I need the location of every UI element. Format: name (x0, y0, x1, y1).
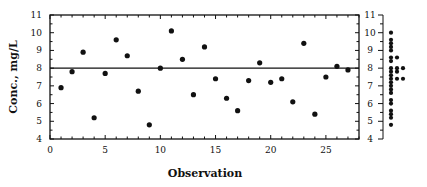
data-point (213, 76, 218, 81)
dot-plot-point (389, 31, 393, 35)
dot-plot-point (389, 91, 393, 95)
y-tick-label: 4 (36, 134, 42, 144)
y-tick-label: 7 (36, 81, 42, 91)
dot-plot-point (389, 123, 393, 127)
y-axis-title: Conc., mg/L (7, 40, 20, 114)
y-tick-label: 5 (36, 116, 42, 126)
x-tick-label: 10 (155, 145, 167, 155)
y-tick-label: 11 (31, 10, 42, 20)
data-point (136, 89, 141, 94)
dot-plot-point (389, 112, 393, 116)
x-tick-label: 15 (210, 145, 222, 155)
data-point (147, 122, 152, 127)
data-point (114, 37, 119, 42)
scatter-chart: 45678910110510152025 4567891011 Observat… (0, 0, 427, 187)
data-point (169, 28, 174, 33)
data-point (125, 53, 130, 58)
side-dot-plot: 4567891011 (364, 10, 405, 144)
data-point (279, 76, 284, 81)
data-point (312, 112, 317, 117)
data-point (180, 57, 185, 62)
data-point (92, 115, 97, 120)
side-y-tick-label: 10 (364, 28, 376, 38)
y-tick-label: 9 (36, 45, 42, 55)
dot-plot-point (389, 101, 393, 105)
data-point (202, 44, 207, 49)
data-point (69, 69, 74, 74)
side-y-tick-label: 5 (367, 116, 373, 126)
x-tick-label: 5 (102, 145, 108, 155)
side-y-tick-label: 11 (364, 10, 375, 20)
data-point (191, 92, 196, 97)
data-point (290, 99, 295, 104)
side-y-tick-label: 4 (367, 134, 373, 144)
dot-plot-point (389, 80, 393, 84)
dot-plot-point (395, 55, 399, 59)
data-point (235, 108, 240, 113)
dot-plot-point (395, 77, 399, 81)
dot-plot-point (389, 73, 393, 77)
x-axis-title: Observation (168, 167, 242, 180)
side-y-tick-label: 7 (367, 81, 373, 91)
x-tick-label: 25 (320, 145, 332, 155)
data-point (103, 71, 108, 76)
data-point (158, 66, 163, 71)
dot-plot-point (389, 41, 393, 45)
data-point (323, 74, 328, 79)
x-tick-label: 20 (265, 145, 277, 155)
data-point (334, 64, 339, 69)
dot-plot-point (389, 66, 393, 70)
data-point (301, 41, 306, 46)
y-tick-label: 10 (31, 28, 43, 38)
y-tick-label: 8 (36, 63, 42, 73)
side-y-tick-label: 8 (367, 63, 373, 73)
data-point (224, 96, 229, 101)
dot-plot-point (395, 66, 399, 70)
data-point (257, 60, 262, 65)
data-point (81, 50, 86, 55)
data-point (246, 78, 251, 83)
data-point (345, 67, 350, 72)
main-plot-area: 45678910110510152025 (31, 10, 359, 155)
dot-plot-point (389, 59, 393, 63)
dot-plot-point (401, 77, 405, 81)
data-point (58, 85, 63, 90)
y-tick-label: 6 (36, 99, 42, 109)
plot-frame (50, 15, 359, 139)
x-tick-label: 0 (47, 145, 53, 155)
side-y-tick-label: 9 (367, 45, 373, 55)
dot-plot-point (401, 66, 405, 70)
data-point (268, 80, 273, 85)
side-y-tick-label: 6 (367, 99, 373, 109)
